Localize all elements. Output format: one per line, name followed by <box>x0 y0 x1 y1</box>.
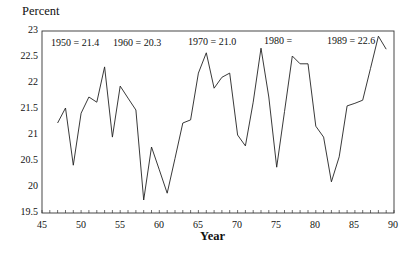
y-tick: 22.5 <box>4 50 38 61</box>
x-tick: 70 <box>227 219 247 230</box>
x-tick: 50 <box>71 219 91 230</box>
annotation-1960: 1960 = 20.3 <box>113 37 161 48</box>
y-tick: 23 <box>4 24 38 35</box>
y-tick: 20 <box>4 180 38 191</box>
annotation-1970: 1970 = 21.0 <box>188 36 236 47</box>
y-tick: 22 <box>4 76 38 87</box>
x-tick: 65 <box>188 219 208 230</box>
x-tick: 60 <box>149 219 169 230</box>
y-axis-label: Percent <box>22 4 59 19</box>
x-axis-label: Year <box>200 229 225 244</box>
y-tick: 19.5 <box>4 206 38 217</box>
x-tick: 75 <box>266 219 286 230</box>
y-tick: 21 <box>4 128 38 139</box>
y-tick: 20.5 <box>4 154 38 165</box>
annotation-1950: 1950 = 21.4 <box>51 37 99 48</box>
y-tick: 21.5 <box>4 102 38 113</box>
annotation-1989: 1989 = 22.6 <box>327 35 375 46</box>
annotation-1980: 1980 = <box>264 35 292 46</box>
x-tick: 45 <box>32 219 52 230</box>
data-line <box>58 36 387 200</box>
x-tick: 55 <box>110 219 130 230</box>
plot-frame <box>42 31 394 213</box>
x-tick: 80 <box>305 219 325 230</box>
x-tick: 85 <box>344 219 364 230</box>
x-tick: 90 <box>383 219 403 230</box>
